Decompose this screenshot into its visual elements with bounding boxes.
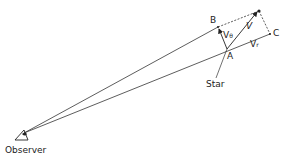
vtheta-sub: θ: [229, 32, 233, 39]
diagram-canvas: B A C V Vθ Vr Star Observer: [0, 0, 285, 160]
sightline-to-B: [24, 27, 218, 133]
label-A: A: [227, 52, 233, 61]
velocity-diagram: [0, 0, 285, 160]
label-B: B: [210, 16, 216, 25]
label-observer: Observer: [5, 146, 46, 155]
label-C: C: [273, 29, 279, 38]
sightline-to-C: [24, 34, 270, 133]
dashed-B-to-tip: [218, 11, 259, 27]
dashed-tip-to-C: [259, 11, 270, 34]
vr-sub: r: [256, 41, 258, 48]
label-Vtheta: Vθ: [223, 31, 233, 40]
label-Vr: Vr: [250, 40, 259, 49]
label-V: V: [246, 22, 252, 31]
label-star: Star: [206, 80, 224, 89]
